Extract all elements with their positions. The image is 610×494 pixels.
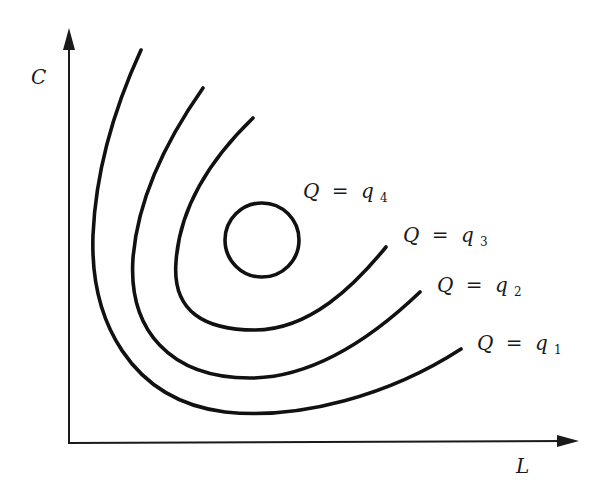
isoquant-curve-q4 xyxy=(225,203,299,277)
x-axis-arrow-icon xyxy=(557,435,579,447)
y-axis-arrow-icon xyxy=(63,28,75,50)
diagram-canvas: C L Q = q 4 Q = q 3 Q = q 2 Q xyxy=(0,0,610,494)
label-q2: Q = q 2 xyxy=(437,273,522,299)
label-q4: Q = q 4 xyxy=(303,179,388,205)
x-axis-label: L xyxy=(515,454,529,478)
y-axis xyxy=(63,28,75,444)
label-q1: Q = q 1 xyxy=(477,331,562,357)
label-q3: Q = q 3 xyxy=(403,223,488,249)
x-axis xyxy=(68,435,579,447)
isoquant-curve-q3 xyxy=(176,118,386,330)
y-axis-label: C xyxy=(31,65,46,89)
isoquant-diagram: C L Q = q 4 Q = q 3 Q = q 2 Q xyxy=(0,0,610,494)
isoquant-curve-q2 xyxy=(133,88,420,378)
